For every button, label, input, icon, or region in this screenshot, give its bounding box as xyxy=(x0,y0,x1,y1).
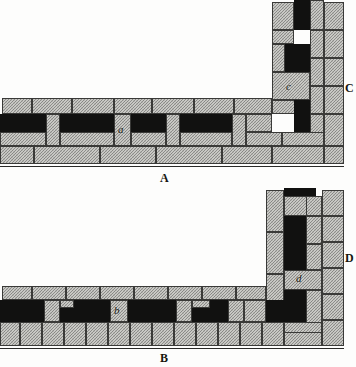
brick xyxy=(168,286,202,300)
brick-header xyxy=(130,322,152,346)
brick-header xyxy=(64,322,86,346)
wall-cavity-vertical xyxy=(284,188,316,196)
figure-b-baseline xyxy=(0,348,344,349)
figure-d-caption: D xyxy=(345,252,354,264)
brick-header xyxy=(108,322,130,346)
brick xyxy=(322,216,344,242)
label-b-cavity: b xyxy=(114,305,120,316)
brick xyxy=(236,286,266,300)
figure-b: b d B D xyxy=(0,0,356,367)
brick-header xyxy=(20,322,42,346)
brick-header xyxy=(0,322,20,346)
engraving-plate: a c A C xyxy=(0,0,356,367)
brick-header xyxy=(152,322,174,346)
brick-header xyxy=(218,322,240,346)
brick-header xyxy=(86,322,108,346)
brick xyxy=(284,332,322,346)
brick xyxy=(306,244,322,270)
brick-header xyxy=(262,322,284,346)
brick-tie xyxy=(176,300,192,322)
brick xyxy=(60,300,74,308)
brick-header xyxy=(174,322,196,346)
brick xyxy=(192,300,210,308)
figure-b-caption: B xyxy=(160,352,168,364)
brick xyxy=(266,190,284,232)
brick-tie xyxy=(228,300,244,322)
brick xyxy=(266,232,284,274)
brick xyxy=(202,286,236,300)
brick xyxy=(322,190,344,216)
wall-cavity-vertical xyxy=(262,300,306,322)
brick xyxy=(66,286,100,300)
brick xyxy=(134,286,168,300)
brick xyxy=(32,286,66,300)
label-d-cavity: d xyxy=(296,273,302,284)
wall-cavity-horizontal xyxy=(0,300,266,322)
brick-tie xyxy=(44,300,60,322)
brick xyxy=(2,286,32,300)
brick-header xyxy=(42,322,64,346)
brick xyxy=(100,286,134,300)
brick-tie-d xyxy=(284,270,322,290)
brick-header xyxy=(196,322,218,346)
brick xyxy=(244,300,266,322)
brick xyxy=(322,242,344,268)
brick xyxy=(322,320,344,346)
brick xyxy=(306,216,322,244)
brick-header xyxy=(240,322,262,346)
brick xyxy=(306,196,322,216)
wall-cavity-vertical xyxy=(284,216,306,270)
brick xyxy=(322,294,344,320)
brick xyxy=(322,268,344,294)
